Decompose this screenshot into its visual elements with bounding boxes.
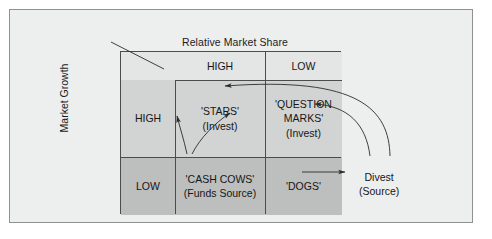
quadrant-question-marks-subtitle: (Invest) [286, 126, 321, 140]
quadrant-cash-cows-title: 'CASH COWS' [186, 172, 255, 186]
top-axis-title: Relative Market Share [120, 36, 350, 48]
bcg-matrix-diagram: Relative Market Share Market Growth HIGH… [0, 0, 492, 239]
grid-vline-head [175, 80, 176, 214]
quadrant-stars-subtitle: (Invest) [202, 119, 237, 133]
quadrant-stars-title: 'STARS' [201, 104, 239, 118]
divest-label: Divest (Source) [359, 170, 399, 198]
grid-hline-rows [121, 157, 341, 158]
quadrant-question-marks: 'QUESTION MARKS' (Invest) [265, 80, 342, 157]
quadrant-cash-cows-subtitle: (Funds Source) [184, 186, 256, 200]
divest-title: Divest [359, 170, 399, 184]
matrix-grid: HIGH LOW HIGH 'STARS' (Invest) 'QUESTION… [120, 51, 341, 214]
left-axis-title: Market Growth [58, 38, 70, 158]
quadrant-cash-cows: 'CASH COWS' (Funds Source) [175, 157, 265, 215]
column-header-low: LOW [265, 52, 342, 80]
column-header-high: HIGH [175, 52, 265, 80]
quadrant-stars: 'STARS' (Invest) [175, 80, 265, 157]
quadrant-question-marks-title-line1: 'QUESTION [275, 97, 332, 111]
row-header-low: LOW [121, 157, 175, 215]
divest-subtitle: (Source) [359, 184, 399, 198]
grid-hline-header [175, 80, 342, 81]
quadrant-dogs: 'DOGS' [265, 157, 342, 215]
matrix-corner-cell [121, 52, 175, 80]
quadrant-dogs-title: 'DOGS' [286, 179, 321, 193]
quadrant-question-marks-title-line2: MARKS' [284, 111, 323, 125]
diagram-card: Relative Market Share Market Growth HIGH… [9, 9, 473, 223]
row-header-high: HIGH [121, 80, 175, 157]
grid-vline-columns [265, 52, 266, 214]
